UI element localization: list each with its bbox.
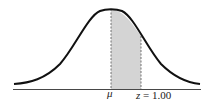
z-value: = 1.00 [140, 89, 171, 101]
normal-curve-chart [0, 0, 212, 108]
shaded-area [111, 9, 141, 89]
mean-label: μ [107, 87, 113, 99]
z-label: z = 1.00 [136, 89, 171, 101]
density-curve [14, 9, 200, 84]
